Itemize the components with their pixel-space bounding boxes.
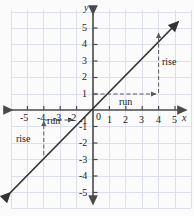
rise-label-left: rise: [16, 134, 30, 144]
y-tick-label-5: 5: [82, 23, 87, 33]
y-tick-label--3: -3: [79, 155, 87, 165]
x-tick-label-5: 5: [172, 115, 177, 125]
y-axis-label: y: [84, 3, 88, 13]
y-tick-label-3: 3: [82, 56, 87, 66]
x-tick-label--4: -4: [37, 113, 45, 123]
x-tick-label--2: -2: [68, 113, 76, 123]
graph-figure: x y 0 -5 -4 -3 -2 -1 1 2 3 4 5 5 4 3 2 1…: [0, 0, 194, 216]
y-tick-label--1: -1: [79, 122, 87, 132]
x-tick-label-3: 3: [139, 115, 144, 125]
axes-and-plot-layer: [0, 0, 194, 216]
y-tick-label-2: 2: [82, 72, 87, 82]
x-tick-label-4: 4: [156, 115, 161, 125]
y-tick-label-4: 4: [82, 39, 87, 49]
x-tick-label-2: 2: [123, 115, 128, 125]
y-tick-label--5: -5: [79, 188, 87, 198]
run-label-right: run: [119, 97, 132, 107]
rise-label-right: rise: [162, 57, 176, 67]
x-axis-label: x: [182, 113, 186, 123]
plotted-line: [10, 22, 178, 193]
y-tick-label--4: -4: [79, 171, 87, 181]
slope-triangle-right: [94, 33, 159, 94]
x-tick-label-1: 1: [107, 115, 112, 125]
origin-label: 0: [96, 112, 101, 122]
y-tick-label-1: 1: [82, 89, 87, 99]
x-axis: [12, 106, 186, 110]
y-tick-label--2: -2: [79, 138, 87, 148]
run-label-left: run: [47, 116, 60, 126]
x-tick-label--5: -5: [20, 113, 28, 123]
